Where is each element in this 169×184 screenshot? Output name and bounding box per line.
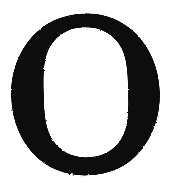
letter-o-glyph bbox=[0, 0, 169, 184]
image-canvas: O bbox=[0, 0, 169, 184]
